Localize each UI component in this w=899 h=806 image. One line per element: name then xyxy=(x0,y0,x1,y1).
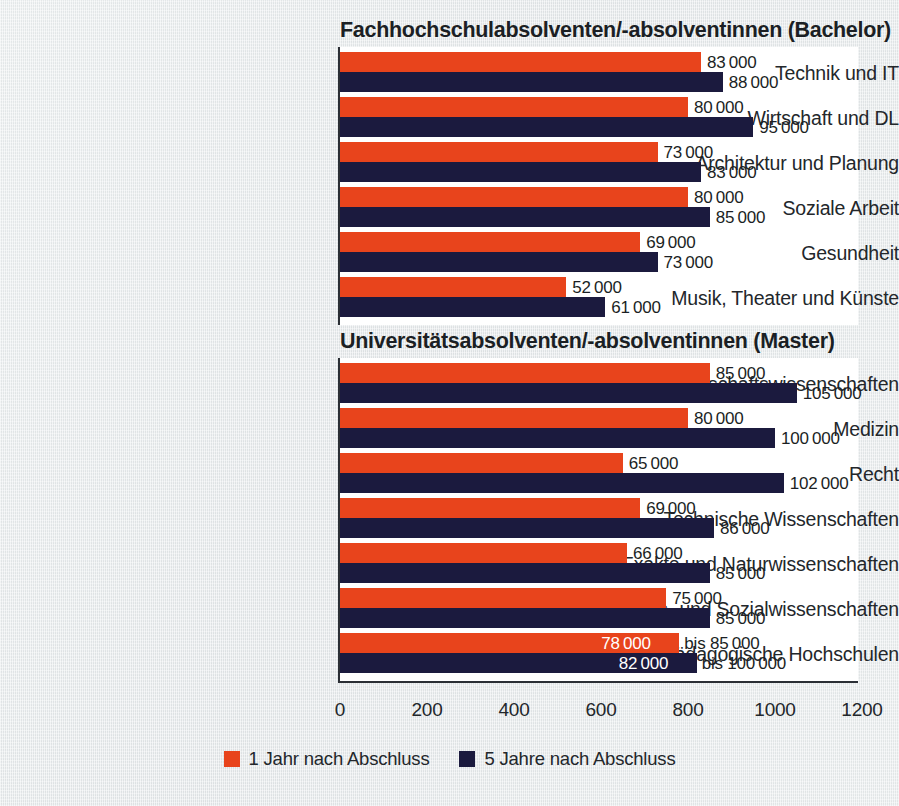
bar-value-label: 105 000 xyxy=(803,384,862,404)
bar-value-suffix: bis 85 000 xyxy=(684,634,759,654)
bar-one-year xyxy=(340,142,658,162)
bar-value-label: 85 000 xyxy=(716,609,765,629)
bar-one-year xyxy=(340,232,640,252)
x-axis-tick-label: 1200 xyxy=(822,699,899,721)
bar-value-label: 85 000 xyxy=(716,364,765,384)
x-axis-tick-label: 1000 xyxy=(735,699,815,721)
bar-value-label: 73 000 xyxy=(664,253,713,273)
bar-value-label: 80 000 xyxy=(694,188,743,208)
bar-one-year xyxy=(340,408,688,428)
bar-value-label: 95 000 xyxy=(759,118,808,138)
bar-five-years xyxy=(340,297,605,317)
bar-value-label: 65 000 xyxy=(629,454,678,474)
bar-value-label: 78 000 xyxy=(601,634,650,654)
chart-title: Universitätsabsolventen/-absolventinnen … xyxy=(340,329,835,354)
legend-item[interactable]: 1 Jahr nach Abschluss xyxy=(224,748,430,770)
bar-value-label: 61 000 xyxy=(611,298,660,318)
bar-value-label: 80 000 xyxy=(694,98,743,118)
bar-value-label: 86 000 xyxy=(720,519,769,539)
bar-value-label: 102 000 xyxy=(790,474,849,494)
bar-one-year xyxy=(340,498,640,518)
bar-five-years xyxy=(340,252,658,272)
bar-five-years xyxy=(340,117,753,137)
bar-five-years xyxy=(340,207,710,227)
bar-five-years xyxy=(340,428,775,448)
bar-five-years xyxy=(340,383,797,403)
legend-label: 5 Jahre nach Abschluss xyxy=(484,748,675,770)
bar-value-label: 85 000 xyxy=(716,564,765,584)
bar-value-label: 83 000 xyxy=(707,163,756,183)
x-axis-tick-label: 0 xyxy=(300,699,380,721)
bar-value-label: 83 000 xyxy=(707,53,756,73)
bar-one-year xyxy=(340,187,688,207)
x-axis-tick-label: 200 xyxy=(387,699,467,721)
bar-one-year xyxy=(340,97,688,117)
legend-item[interactable]: 5 Jahre nach Abschluss xyxy=(459,748,675,770)
bar-one-year xyxy=(340,277,566,297)
bar-five-years xyxy=(340,563,710,583)
legend-swatch-icon xyxy=(224,751,240,767)
bar-value-label: 100 000 xyxy=(781,429,840,449)
x-axis-line xyxy=(338,681,858,683)
bar-value-label: 88 000 xyxy=(729,73,778,93)
bar-one-year xyxy=(340,543,627,563)
bar-five-years xyxy=(340,518,714,538)
bar-value-label: 80 000 xyxy=(694,409,743,429)
bar-value-label: 75 000 xyxy=(672,589,721,609)
bar-value-label: 73 000 xyxy=(664,143,713,163)
chart-legend: 1 Jahr nach Abschluss5 Jahre nach Abschl… xyxy=(0,748,899,770)
legend-label: 1 Jahr nach Abschluss xyxy=(249,748,430,770)
bar-value-label: 82 000 xyxy=(619,654,668,674)
legend-swatch-icon xyxy=(459,751,475,767)
bar-value-label: 52 000 xyxy=(572,278,621,298)
bar-value-suffix: bis 100 000 xyxy=(702,654,786,674)
bar-five-years xyxy=(340,608,710,628)
chart-title: Fachhochschulabsolventen/-absolventinnen… xyxy=(340,18,891,43)
x-axis-tick-label: 600 xyxy=(561,699,641,721)
bar-five-years xyxy=(340,162,701,182)
bar-one-year xyxy=(340,363,710,383)
x-axis-tick-label: 800 xyxy=(648,699,728,721)
x-axis-tick-label: 400 xyxy=(474,699,554,721)
bar-one-year xyxy=(340,453,623,473)
bar-one-year xyxy=(340,588,666,608)
bar-value-label: 69 000 xyxy=(646,499,695,519)
bar-value-label: 69 000 xyxy=(646,233,695,253)
bar-five-years xyxy=(340,473,784,493)
bar-value-label: 85 000 xyxy=(716,208,765,228)
bar-value-label: 66 000 xyxy=(633,544,682,564)
bar-one-year xyxy=(340,52,701,72)
bar-five-years xyxy=(340,72,723,92)
